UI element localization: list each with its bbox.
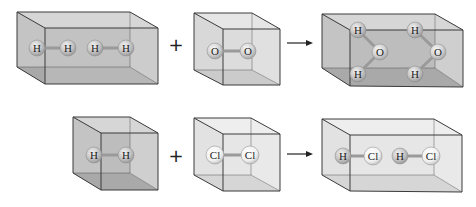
reaction-diagram: H H H H + O O bbox=[0, 0, 476, 207]
atom-label: H bbox=[122, 149, 130, 161]
reaction-arrow bbox=[287, 40, 313, 46]
atom-label: O bbox=[434, 46, 442, 58]
atom-label: O bbox=[376, 46, 384, 58]
atom-label: H bbox=[354, 68, 362, 80]
atom-label: H bbox=[90, 149, 98, 161]
atom-label: H bbox=[411, 68, 419, 80]
atom-label: Cl bbox=[245, 149, 255, 161]
atom-label: H bbox=[91, 42, 99, 54]
atom-label: Cl bbox=[426, 150, 436, 162]
o2-container-box bbox=[194, 13, 280, 85]
atom-label: H bbox=[354, 24, 362, 36]
atom-label: H bbox=[396, 150, 404, 162]
reaction-arrow bbox=[287, 151, 313, 157]
atom-label: H bbox=[64, 42, 72, 54]
atom-label: H bbox=[411, 24, 419, 36]
atom-label: O bbox=[244, 45, 252, 57]
atom-label: O bbox=[211, 45, 219, 57]
atom-label: H bbox=[339, 150, 347, 162]
atom-label: Cl bbox=[368, 150, 378, 162]
plus-sign: + bbox=[168, 34, 183, 55]
plus-sign: + bbox=[168, 145, 183, 166]
atom-label: Cl bbox=[210, 149, 220, 161]
atom-label: H bbox=[122, 42, 130, 54]
atom-label: H bbox=[33, 42, 41, 54]
